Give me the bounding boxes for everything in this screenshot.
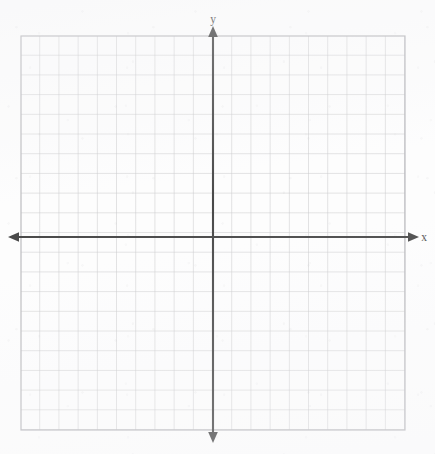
x-axis-label: x	[421, 231, 427, 243]
x-axis-arrowhead-right	[408, 232, 419, 242]
y-axis-label: y	[210, 13, 216, 26]
y-axis-arrowhead-down	[208, 432, 218, 443]
graph-paper-figure: y x	[0, 0, 435, 454]
x-axis-arrowhead-left	[8, 232, 19, 242]
coordinate-plane-svg: y x	[0, 0, 435, 454]
y-axis-arrowhead-up	[208, 26, 218, 37]
